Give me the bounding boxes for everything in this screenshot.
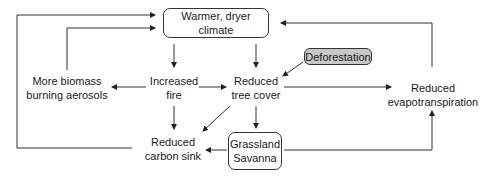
node-label-line2: evapotranspiration bbox=[385, 95, 481, 109]
node-label-line1: Grassland bbox=[230, 137, 280, 151]
node-label-line2: fire bbox=[144, 88, 204, 102]
node-label: Warmer, dryer climate bbox=[164, 9, 268, 37]
node-increased-fire: Increased fire bbox=[144, 74, 204, 102]
node-deforestation: Deforestation bbox=[304, 48, 372, 65]
node-reduced-carbon-sink: Reduced carbon sink bbox=[138, 135, 208, 163]
node-label-line1: Reduced bbox=[138, 135, 208, 149]
edge-biomass-to-warmer bbox=[67, 28, 155, 70]
edge-grass-to-evap bbox=[284, 111, 432, 150]
node-warmer-dryer-climate: Warmer, dryer climate bbox=[163, 8, 269, 38]
node-label-line1: More biomass bbox=[22, 74, 112, 88]
node-label-line1: Reduced bbox=[385, 81, 481, 95]
node-label-line2: carbon sink bbox=[138, 149, 208, 163]
node-label-line2: burning aerosols bbox=[22, 88, 112, 102]
node-reduced-evapotranspiration: Reduced evapotranspiration bbox=[385, 81, 481, 109]
edge-tree-to-carbon bbox=[203, 106, 230, 131]
node-reduced-tree-cover: Reduced tree cover bbox=[223, 74, 289, 102]
node-grassland-savanna: Grassland Savanna bbox=[228, 132, 282, 170]
node-label-line1: Reduced bbox=[223, 74, 289, 88]
node-label-line1: Increased bbox=[144, 74, 204, 88]
node-label-line2: tree cover bbox=[223, 88, 289, 102]
node-label: Deforestation bbox=[305, 50, 370, 64]
node-more-biomass-burning-aerosols: More biomass burning aerosols bbox=[22, 74, 112, 102]
node-label-line2: Savanna bbox=[233, 151, 276, 165]
feedback-diagram: Warmer, dryer climate Deforestation More… bbox=[0, 0, 494, 178]
